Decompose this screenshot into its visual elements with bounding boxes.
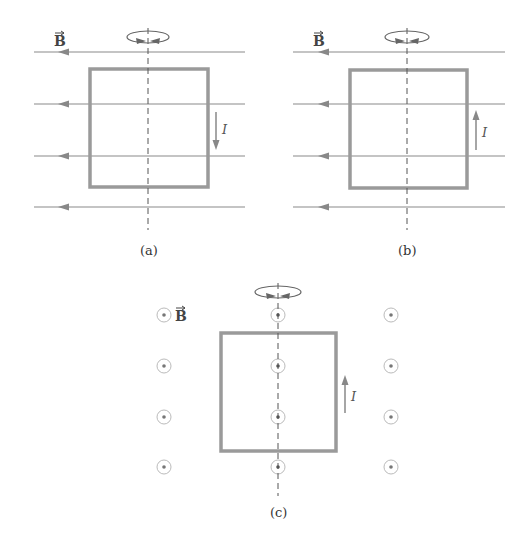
field-lines-a <box>34 52 245 207</box>
field-label-a: B <box>54 31 66 49</box>
caption-b: (b) <box>398 243 416 258</box>
svg-text:B: B <box>175 308 187 324</box>
field-out-of-page-icon <box>157 359 171 373</box>
panel-a: B I (a) <box>34 28 245 258</box>
caption-a: (a) <box>140 243 158 258</box>
svg-text:B: B <box>313 33 325 49</box>
field-out-of-page-icon <box>384 308 398 322</box>
physics-diagram: B I (a) <box>0 0 530 539</box>
field-lines-b <box>293 52 505 207</box>
panel-c: B I (c) <box>157 283 398 520</box>
field-label-b: B <box>313 31 325 49</box>
svg-text:B: B <box>54 33 66 49</box>
panel-b: B I (b) <box>293 28 505 258</box>
current-arrow-icon-b <box>473 110 480 150</box>
field-out-of-page-icon <box>157 308 171 322</box>
current-arrow-icon-a <box>213 112 220 150</box>
current-label-c: I <box>350 389 357 404</box>
field-out-of-page-icon <box>384 359 398 373</box>
current-loop-b <box>350 70 467 188</box>
field-out-of-page-icon <box>157 460 171 474</box>
field-label-c: B <box>175 306 187 324</box>
field-out-of-page-icon <box>157 410 171 424</box>
field-out-of-page-icon <box>384 410 398 424</box>
field-arrowheads-b <box>318 49 329 211</box>
field-arrowheads-a <box>58 49 69 211</box>
caption-c: (c) <box>270 505 287 520</box>
current-loop-a <box>90 69 208 187</box>
field-out-of-page-icon <box>384 460 398 474</box>
current-label-a: I <box>221 122 228 137</box>
current-arrow-icon-c <box>342 375 349 413</box>
current-label-b: I <box>481 125 488 140</box>
